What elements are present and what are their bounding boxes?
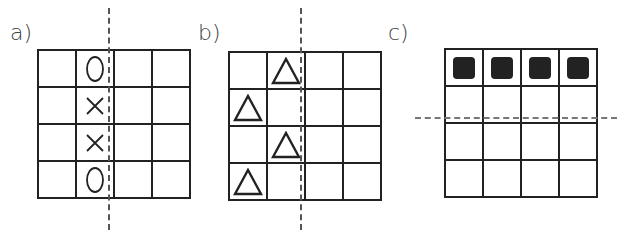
filled-square-icon (453, 57, 475, 79)
grid-row (445, 49, 597, 86)
grid-cell (114, 124, 152, 161)
grid-row (229, 163, 381, 200)
panel-a-grid (37, 49, 191, 199)
grid-row (38, 124, 190, 161)
grid-row (229, 52, 381, 89)
cross-x-icon (84, 95, 106, 117)
panel-b-symmetry-line (300, 8, 302, 230)
filled-square-icon (491, 57, 513, 79)
grid-cell (152, 124, 190, 161)
panel-c-label: c) (388, 20, 409, 45)
triangle-icon (233, 168, 263, 196)
grid-cell (521, 160, 559, 197)
grid-cell (483, 123, 521, 160)
grid-cell (305, 89, 343, 126)
grid-cell (114, 50, 152, 87)
grid-row (445, 160, 597, 197)
grid-cell (229, 52, 267, 89)
grid-cell (521, 49, 559, 86)
grid-row (38, 161, 190, 198)
grid-row (38, 50, 190, 87)
grid-cell (114, 161, 152, 198)
grid-cell (343, 52, 381, 89)
grid-cell (114, 87, 152, 124)
grid-cell (559, 123, 597, 160)
grid-cell (152, 87, 190, 124)
grid-cell (445, 123, 483, 160)
grid-row (229, 89, 381, 126)
grid-cell (229, 89, 267, 126)
grid-cell (445, 49, 483, 86)
grid-cell (38, 87, 76, 124)
grid-cell (559, 160, 597, 197)
grid-cell (483, 49, 521, 86)
grid-cell (38, 50, 76, 87)
filled-square-icon (529, 57, 551, 79)
grid-row (445, 123, 597, 160)
panel-c-grid (444, 48, 598, 198)
grid-cell (305, 163, 343, 200)
circle-o-icon (85, 166, 105, 194)
grid-cell (152, 161, 190, 198)
filled-square-icon (567, 57, 589, 79)
grid-cell (229, 163, 267, 200)
grid-cell (343, 89, 381, 126)
grid-cell (38, 124, 76, 161)
grid-cell (343, 163, 381, 200)
grid-cell (559, 49, 597, 86)
triangle-icon (271, 57, 301, 85)
panel-a-label: a) (10, 20, 32, 45)
circle-o-icon (85, 55, 105, 83)
grid-cell (483, 160, 521, 197)
grid-cell (305, 52, 343, 89)
grid-cell (305, 126, 343, 163)
cross-x-icon (84, 132, 106, 154)
grid-cell (445, 160, 483, 197)
panel-a-symmetry-line (108, 8, 110, 230)
grid-cell (152, 50, 190, 87)
triangle-icon (233, 94, 263, 122)
grid-row (229, 126, 381, 163)
panel-b-grid (228, 51, 382, 201)
panel-b-label: b) (198, 20, 221, 45)
grid-cell (521, 123, 559, 160)
grid-row (38, 87, 190, 124)
triangle-icon (271, 131, 301, 159)
panel-c-symmetry-line (415, 117, 617, 119)
grid-cell (343, 126, 381, 163)
grid-cell (229, 126, 267, 163)
grid-cell (38, 161, 76, 198)
